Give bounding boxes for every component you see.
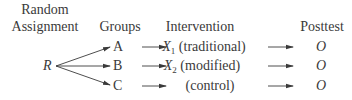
intervention-symbol: X — [162, 39, 171, 54]
intervention-b: X2 (modified) — [164, 58, 240, 74]
posttest-b: O — [316, 58, 326, 74]
arrow-r-to-a — [56, 47, 110, 66]
posttest-a: O — [316, 39, 326, 55]
posttest-c: O — [316, 78, 326, 94]
arrow-r-to-c — [56, 66, 110, 85]
intervention-label: (control) — [186, 78, 235, 93]
group-c: C — [113, 78, 122, 94]
group-a: A — [113, 39, 123, 55]
random-assignment-node: R — [43, 58, 52, 74]
intervention-c: (control) — [186, 78, 235, 94]
group-b: B — [113, 58, 122, 74]
intervention-label: (traditional) — [179, 39, 246, 54]
intervention-a: X1 (traditional) — [162, 39, 245, 55]
intervention-label: (modified) — [180, 58, 240, 73]
intervention-subscript: 2 — [172, 65, 177, 75]
intervention-symbol: X — [164, 58, 173, 73]
intervention-subscript: 1 — [171, 46, 176, 56]
